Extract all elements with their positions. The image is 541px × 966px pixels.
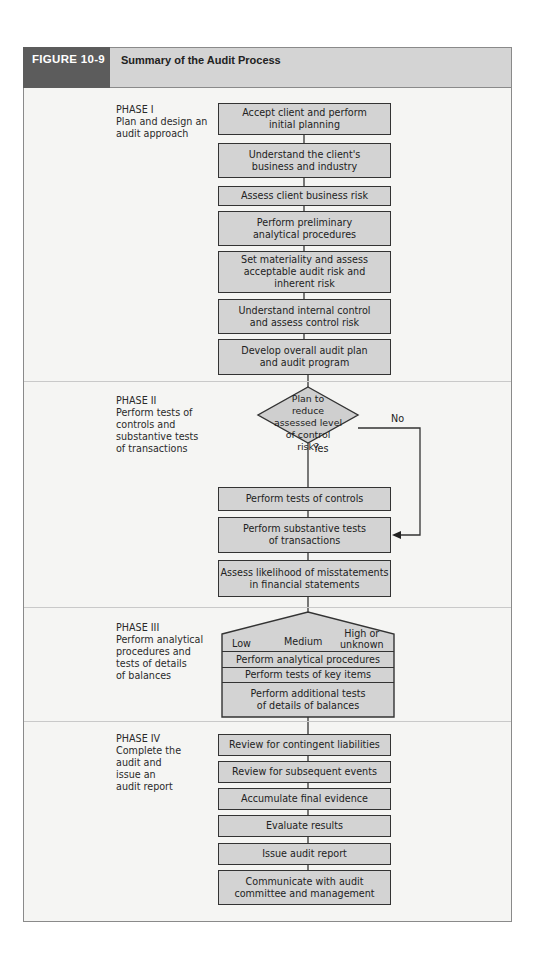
step-tests-of-controls: Perform tests of controls xyxy=(218,487,391,511)
phase-1-label: PHASE I Plan and design an audit approac… xyxy=(116,104,207,140)
step-additional-tests: Perform additional tests of details of b… xyxy=(222,682,394,717)
step-preliminary-analytical: Perform preliminary analytical procedure… xyxy=(218,211,391,246)
phase-4-label: PHASE IV Complete the audit and issue an… xyxy=(116,733,181,793)
step-communicate: Communicate with audit committee and man… xyxy=(218,870,391,905)
step-contingent-liabilities: Review for contingent liabilities xyxy=(218,734,391,756)
level-medium: Medium xyxy=(284,636,322,647)
phase-separator xyxy=(24,607,511,608)
decision-text: Plan to reduce assessed level of control… xyxy=(268,393,348,453)
level-low: Low xyxy=(232,638,251,649)
step-evaluate-results: Evaluate results xyxy=(218,815,391,837)
phase-separator xyxy=(24,721,511,722)
step-analytical-procedures: Perform analytical procedures xyxy=(222,651,394,667)
phase-3-label: PHASE III Perform analytical procedures … xyxy=(116,622,203,682)
step-substantive-tests: Perform substantive tests of transaction… xyxy=(218,517,391,553)
step-subsequent-events: Review for subsequent events xyxy=(218,761,391,783)
step-key-items: Perform tests of key items xyxy=(222,667,394,682)
step-audit-plan: Develop overall audit plan and audit pro… xyxy=(218,339,391,375)
step-set-materiality: Set materiality and assess acceptable au… xyxy=(218,251,391,293)
arrowhead-icon xyxy=(392,531,401,539)
step-assess-business-risk: Assess client business risk xyxy=(218,186,391,206)
step-final-evidence: Accumulate final evidence xyxy=(218,788,391,810)
phase-separator xyxy=(24,381,511,382)
phase-2-label: PHASE II Perform tests of controls and s… xyxy=(116,395,198,455)
no-label: No xyxy=(391,413,404,424)
step-internal-control: Understand internal control and assess c… xyxy=(218,299,391,334)
step-issue-report: Issue audit report xyxy=(218,843,391,865)
level-high: High or unknown xyxy=(340,628,384,650)
step-understand-business: Understand the client's business and ind… xyxy=(218,143,391,178)
yes-label: Yes xyxy=(313,443,329,454)
step-accept-client: Accept client and perform initial planni… xyxy=(218,103,391,135)
step-assess-misstatements: Assess likelihood of misstatements in fi… xyxy=(218,560,391,597)
